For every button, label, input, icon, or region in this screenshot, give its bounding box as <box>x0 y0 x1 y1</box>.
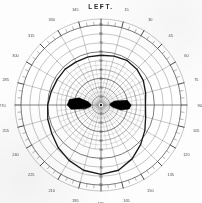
radial-tick-label-down-30: 30 <box>99 130 103 134</box>
radial-tick-label-down-10: 10 <box>99 112 103 116</box>
angular-tick-label-345: 345 <box>72 7 79 12</box>
angular-tick-label-165: 165 <box>123 198 130 203</box>
angular-tick-label-0: 0 <box>100 4 103 9</box>
radial-tick-label-up-90: 90 <box>99 23 103 27</box>
radial-tick-label-up-20: 20 <box>99 86 103 90</box>
angular-tick-label-120: 120 <box>183 152 190 157</box>
angular-tick-label-60: 60 <box>184 53 189 58</box>
angular-tick-label-135: 135 <box>168 172 175 177</box>
angular-tick-label-45: 45 <box>169 33 173 38</box>
angular-tick-label-270: 270 <box>0 103 6 108</box>
angular-tick-label-330: 330 <box>48 17 55 22</box>
angular-tick-label-225: 225 <box>28 172 35 177</box>
angular-tick-label-210: 210 <box>48 188 55 193</box>
radial-tick-label-up-40: 40 <box>99 68 103 72</box>
radial-tick-label-down-20: 20 <box>99 121 103 125</box>
generated-chart-layer: 0153045607590105120135150165180195210225… <box>0 4 202 203</box>
angular-tick-label-75: 75 <box>194 77 198 82</box>
angular-tick-label-15: 15 <box>124 7 128 12</box>
radial-tick-label-up-30: 30 <box>99 77 103 81</box>
angular-tick-label-195: 195 <box>72 198 79 203</box>
angular-tick-label-150: 150 <box>147 188 154 193</box>
angular-tick-label-300: 300 <box>12 53 19 58</box>
radial-tick-label-up-60: 60 <box>99 50 103 54</box>
radial-tick-label-down-50: 50 <box>99 148 103 152</box>
radial-tick-label-down-80: 80 <box>99 175 103 179</box>
radial-tick-label-up-80: 80 <box>99 32 103 36</box>
radial-tick-label-down-60: 60 <box>99 157 103 161</box>
angular-tick-label-105: 105 <box>193 128 200 133</box>
angular-tick-label-315: 315 <box>28 33 35 38</box>
angular-tick-label-285: 285 <box>2 77 9 82</box>
radial-tick-label-down-70: 70 <box>99 166 103 170</box>
angular-tick-label-90: 90 <box>198 103 202 108</box>
radial-tick-label-down-90: 90 <box>99 183 103 187</box>
fixation-point <box>100 104 102 106</box>
angular-tick-label-30: 30 <box>148 17 153 22</box>
radial-tick-label-down-40: 40 <box>99 139 103 143</box>
polar-plot-svg: 0153045607590105120135150165180195210225… <box>0 0 202 203</box>
perimetry-chart-root: LEFT. 0153045607590105120135150165180195… <box>0 0 202 203</box>
radial-tick-label-up-50: 50 <box>99 59 103 63</box>
radial-tick-label-up-70: 70 <box>99 41 103 45</box>
angular-tick-label-255: 255 <box>2 128 9 133</box>
angular-tick-label-240: 240 <box>12 152 19 157</box>
radial-tick-label-up-10: 10 <box>99 95 103 99</box>
angular-tick-label-180: 180 <box>98 201 105 203</box>
